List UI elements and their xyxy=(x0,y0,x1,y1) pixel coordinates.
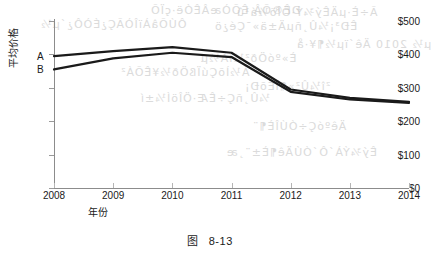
figure-caption: 图8-13 xyxy=(0,232,420,248)
series-line-B xyxy=(54,53,409,103)
series-label-A: A xyxy=(37,51,44,62)
series-label-B: B xyxy=(37,64,44,75)
caption-number: 8-13 xyxy=(209,235,233,247)
series-line-A xyxy=(54,47,409,102)
caption-prefix: 图 xyxy=(187,235,199,248)
